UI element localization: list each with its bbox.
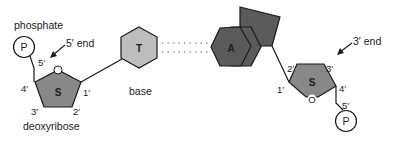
c1-label-right: 1′	[277, 84, 284, 95]
left-nucleotide: phosphate P 5′ end 5′ S 4′ 1′ 3′ 2′ deox…	[14, 19, 158, 132]
phosphate-bond-left	[30, 56, 34, 82]
c2-label-right: 2′	[287, 63, 294, 74]
base-symbol-t: T	[136, 43, 142, 54]
hydrogen-bonds	[162, 43, 209, 52]
c3-label-left: 3′	[31, 106, 38, 117]
phosphate-symbol-left: P	[20, 41, 27, 53]
ring-oxygen-right: O	[308, 94, 315, 105]
c4-label-left: 4′	[21, 83, 28, 94]
c1-label-left: 1′	[83, 87, 90, 98]
glycosidic-bond-left	[81, 59, 122, 82]
phosphate-label: phosphate	[14, 19, 63, 31]
arrowhead-right	[337, 48, 344, 55]
c4-label-right: 4′	[339, 83, 346, 94]
ring-oxygen-left	[54, 66, 62, 74]
base-label: base	[129, 85, 152, 97]
deoxyribose-label: deoxyribose	[23, 120, 80, 132]
c5-label-left: 5′	[38, 57, 45, 68]
c2-label-left: 2′	[73, 106, 80, 117]
sugar-symbol-left: S	[55, 87, 62, 98]
sugar-symbol-right: S	[309, 77, 316, 88]
five-prime-end-label: 5′ end	[66, 37, 94, 49]
nucleotide-pair-diagram: phosphate P 5′ end 5′ S 4′ 1′ 3′ 2′ deox…	[0, 0, 398, 148]
three-prime-end-label: 3′ end	[353, 35, 381, 47]
right-nucleotide: A 3′ end O S 2′ 3′ 1′ 4′ 5′ P	[211, 7, 381, 132]
c3-label-right: 3′	[326, 63, 333, 74]
phosphate-symbol-right: P	[342, 115, 349, 127]
base-symbol-a: A	[227, 43, 234, 54]
